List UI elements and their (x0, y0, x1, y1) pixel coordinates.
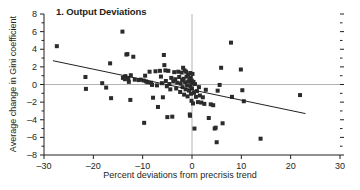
scatter-point (221, 121, 225, 125)
trend-line (53, 61, 306, 114)
scatter-point (229, 41, 233, 45)
scatter-point (165, 115, 169, 119)
chart-title: 1. Output Deviations (56, 6, 146, 17)
scatter-point (176, 70, 180, 74)
scatter-point (173, 77, 177, 81)
scatter-point (125, 52, 129, 56)
scatter-point (190, 72, 194, 76)
scatter-point (169, 76, 173, 80)
scatter-point (127, 80, 131, 84)
scatter-point (161, 95, 165, 99)
y-tick-label: 6 (32, 27, 37, 37)
scatter-point (194, 95, 198, 99)
scatter-point (168, 87, 172, 91)
scatter-point (202, 102, 206, 106)
scatter-point (128, 98, 132, 102)
scatter-point (155, 83, 159, 87)
y-tick-label: –8 (27, 150, 37, 160)
scatter-point (204, 88, 208, 92)
scatter-point (100, 81, 104, 85)
scatter-point (175, 81, 179, 85)
scatter-point (148, 70, 152, 74)
scatter-point (142, 121, 146, 125)
scatter-point (188, 114, 192, 118)
scatter-point (170, 115, 174, 119)
scatter-point (196, 100, 200, 104)
scatter-point (151, 96, 155, 100)
scatter-point (193, 82, 197, 86)
scatter-point (298, 93, 302, 97)
scatter-point (182, 93, 186, 97)
y-tick-label: 8 (32, 9, 37, 19)
scatter-point (259, 137, 263, 141)
scatter-point (109, 96, 113, 100)
scatter-point (240, 88, 244, 92)
scatter-point (164, 79, 168, 83)
y-axis-title: Average change in Gini coefficient (8, 8, 18, 160)
scatter-point (214, 126, 218, 130)
y-tick-label: 2 (32, 62, 37, 72)
scatter-point (179, 82, 183, 86)
scatter-point (211, 103, 215, 107)
scatter-point (191, 101, 195, 105)
scatter-point (153, 69, 157, 73)
scatter-point (84, 87, 88, 91)
scatter-point (162, 63, 166, 67)
scatter-point (143, 74, 147, 78)
scatter-point (55, 44, 59, 48)
scatter-point (197, 85, 201, 89)
scatter-point (216, 89, 220, 93)
scatter-point (207, 116, 211, 120)
scatter-point (215, 140, 219, 144)
x-axis-title: Percent deviations from precrisis trend (0, 170, 360, 180)
y-tick-label: –4 (27, 115, 37, 125)
scatter-point (239, 68, 243, 72)
scatter-point (150, 83, 154, 87)
scatter-point (104, 86, 108, 90)
scatter-point (192, 127, 196, 131)
scatter-point (218, 83, 222, 87)
scatter-point (172, 70, 176, 74)
scatter-point (120, 30, 124, 34)
y-tick-label: 4 (32, 44, 37, 54)
y-tick-label: –2 (27, 97, 37, 107)
scatter-point (108, 61, 112, 65)
scatter-point (166, 69, 170, 73)
y-tick-label: –6 (27, 132, 37, 142)
scatter-point (159, 75, 163, 79)
scatter-point (158, 69, 162, 73)
scatter-point (185, 83, 189, 87)
scatter-point (162, 53, 166, 57)
scatter-point (156, 105, 160, 109)
scatter-point (131, 55, 135, 59)
chart-figure: 1. Output Deviations –8–6–4–202468 –30–2… (0, 0, 360, 190)
scatter-point (83, 75, 87, 79)
y-tick-label: 0 (32, 80, 37, 90)
scatter-point (201, 95, 205, 99)
scatter-point (178, 90, 182, 94)
scatter-plot-canvas (0, 0, 360, 190)
scatter-point (219, 66, 223, 70)
scatter-point (186, 94, 190, 98)
